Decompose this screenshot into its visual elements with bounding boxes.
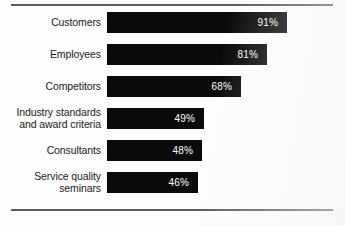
chart-plot-area: Customers 91% Employees 81% Competitors …: [0, 12, 345, 204]
bar-row: Customers 91%: [0, 12, 345, 33]
bar-value-label: 81%: [237, 50, 258, 60]
bar-chart-figure: Customers 91% Employees 81% Competitors …: [0, 0, 345, 226]
bottom-divider-rule: [11, 209, 333, 211]
top-divider-rule: [11, 4, 333, 6]
bar: 49%: [107, 108, 204, 129]
bar: 81%: [107, 44, 267, 65]
bar-value-label: 48%: [172, 146, 193, 156]
bar-track: 48%: [107, 140, 202, 161]
bar: 91%: [107, 12, 287, 33]
bar-track: 91%: [107, 12, 287, 33]
bar-track: 81%: [107, 44, 267, 65]
bar-value-label: 68%: [211, 82, 232, 92]
bar-value-label: 46%: [168, 178, 189, 188]
category-label: Employees: [0, 49, 101, 60]
bar-track: 68%: [107, 76, 241, 97]
bar-track: 49%: [107, 108, 204, 129]
bar: 48%: [107, 140, 202, 161]
bar-value-label: 49%: [174, 114, 195, 124]
bar: 68%: [107, 76, 241, 97]
bar-value-label: 91%: [257, 18, 278, 28]
category-label: Customers: [0, 17, 101, 28]
category-label: Competitors: [0, 81, 101, 92]
category-label: Consultants: [0, 145, 101, 156]
category-label: Service quality seminars: [0, 171, 101, 194]
bar-row: Competitors 68%: [0, 76, 345, 97]
bar-track: 46%: [107, 172, 198, 193]
bar-row: Consultants 48%: [0, 140, 345, 161]
bar-row: Employees 81%: [0, 44, 345, 65]
bar: 46%: [107, 172, 198, 193]
bar-row: Industry standards and award criteria 49…: [0, 108, 345, 129]
bar-row: Service quality seminars 46%: [0, 172, 345, 193]
category-label: Industry standards and award criteria: [0, 107, 101, 130]
